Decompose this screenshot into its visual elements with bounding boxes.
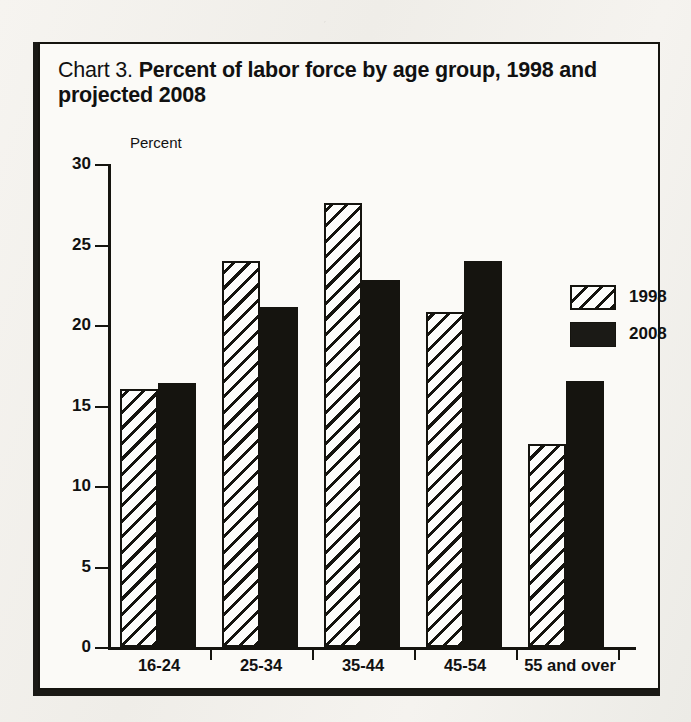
x-axis-label-4: 55 and over — [524, 656, 616, 675]
chart-legend: 1998 2008 — [570, 284, 667, 358]
x-axis-label-2: 35-44 — [342, 656, 384, 675]
bar-2008[interactable] — [566, 381, 604, 647]
bar-1998[interactable] — [528, 444, 566, 647]
legend-item-1998[interactable]: 1998 — [570, 284, 667, 310]
y-tick-label-15: 15 — [72, 396, 91, 416]
chart-title-main: Percent of labor force by age group, 199… — [58, 58, 597, 107]
x-axis-label-0: 16-24 — [138, 656, 180, 675]
bar-1998[interactable] — [324, 203, 362, 647]
y-tick-15 — [95, 406, 108, 408]
y-axis-label: Percent — [130, 134, 182, 151]
bar-2008[interactable] — [464, 261, 502, 647]
y-tick-label-20: 20 — [72, 315, 91, 335]
chart-title: Chart 3. Percent of labor force by age g… — [58, 58, 638, 108]
bar-1998[interactable] — [426, 312, 464, 647]
bar-group — [108, 164, 210, 647]
x-separator — [210, 647, 212, 660]
legend-item-2008[interactable]: 2008 — [570, 321, 667, 347]
bar-group — [414, 164, 516, 647]
bar-1998[interactable] — [222, 261, 260, 647]
y-tick-10 — [95, 486, 108, 488]
legend-label-2008: 2008 — [629, 324, 667, 344]
bar-group — [312, 164, 414, 647]
chart-figure-frame: Chart 3. Percent of labor force by age g… — [38, 42, 660, 690]
y-tick-20 — [95, 325, 108, 327]
bar-2008[interactable] — [362, 280, 400, 647]
bar-2008[interactable] — [158, 383, 196, 647]
x-separator — [312, 647, 314, 660]
y-tick-0 — [95, 647, 108, 649]
bar-group — [210, 164, 312, 647]
legend-swatch-hatched-icon — [570, 285, 616, 310]
plot-area: Percent 0 5 10 15 20 25 30 — [108, 164, 636, 647]
y-tick-label-10: 10 — [72, 476, 91, 496]
y-tick-30 — [95, 164, 108, 166]
chart-title-prefix: Chart 3. — [58, 58, 133, 82]
y-tick-5 — [95, 567, 108, 569]
legend-label-1998: 1998 — [629, 287, 667, 307]
y-tick-25 — [95, 245, 108, 247]
x-separator — [414, 647, 416, 660]
x-separator — [516, 647, 518, 660]
legend-swatch-solid-icon — [570, 322, 616, 347]
y-tick-label-25: 25 — [72, 235, 91, 255]
x-axis-label-3: 45-54 — [444, 656, 486, 675]
x-axis-line — [108, 647, 636, 650]
y-tick-label-5: 5 — [82, 557, 91, 577]
bar-1998[interactable] — [120, 389, 158, 647]
bar-2008[interactable] — [260, 307, 298, 647]
x-separator — [618, 647, 620, 660]
bar-group — [516, 164, 618, 647]
x-axis-label-1: 25-34 — [240, 656, 282, 675]
y-tick-label-0: 0 — [82, 637, 91, 657]
y-tick-label-30: 30 — [72, 154, 91, 174]
